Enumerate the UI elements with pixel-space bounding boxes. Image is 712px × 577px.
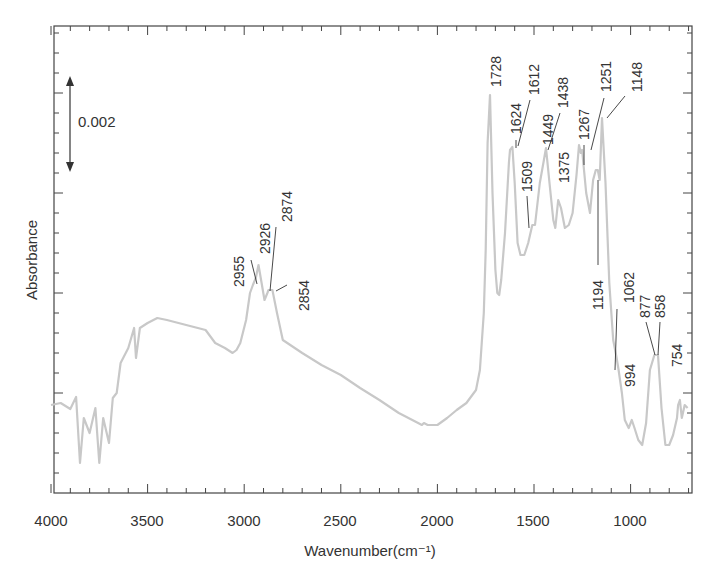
x-tick-4000: 4000 bbox=[34, 512, 67, 529]
x-tick-3500: 3500 bbox=[130, 512, 163, 529]
y-axis-title: Absorbance bbox=[23, 220, 40, 300]
scale-bar: 0.002 bbox=[66, 76, 116, 172]
peak-label-1251: 1251 bbox=[598, 61, 614, 92]
peak-label-1449: 1449 bbox=[540, 114, 556, 145]
peak-label-754: 754 bbox=[669, 343, 685, 367]
x-tick-2000: 2000 bbox=[420, 512, 453, 529]
peak-label-858: 858 bbox=[652, 294, 668, 318]
peak-label-1509: 1509 bbox=[519, 161, 535, 192]
peak-label-1438: 1438 bbox=[555, 77, 571, 108]
arrow-up-icon bbox=[66, 76, 74, 86]
peak-label-1267: 1267 bbox=[576, 109, 592, 140]
peak-label-877: 877 bbox=[637, 294, 653, 318]
scale-bar-label: 0.002 bbox=[78, 113, 116, 130]
peak-label-1375: 1375 bbox=[556, 152, 572, 183]
spectrum-trace bbox=[51, 95, 688, 463]
peak-label-1624: 1624 bbox=[508, 103, 524, 134]
peak-label-1728: 1728 bbox=[488, 56, 504, 87]
peak-label-2854: 2854 bbox=[296, 280, 312, 311]
peak-label-994: 994 bbox=[622, 363, 638, 387]
x-axis-title: Wavenumber(cm⁻¹) bbox=[304, 542, 436, 559]
peak-label-1148: 1148 bbox=[629, 62, 645, 92]
x-tick-1000: 1000 bbox=[613, 512, 646, 529]
y-axis-ticks bbox=[54, 33, 692, 473]
peak-label-1612: 1612 bbox=[526, 64, 542, 95]
x-axis-ticks bbox=[51, 26, 689, 493]
x-tick-2500: 2500 bbox=[323, 512, 356, 529]
peak-leader-lines bbox=[251, 96, 660, 370]
x-tick-3000: 3000 bbox=[227, 512, 260, 529]
peak-label-2874: 2874 bbox=[279, 191, 295, 222]
ir-spectrum-chart: 0.002 4000 3500 3000 2500 2000 1500 1000… bbox=[0, 0, 712, 577]
peak-label-2926: 2926 bbox=[257, 223, 273, 254]
plot-frame bbox=[54, 26, 692, 493]
arrow-down-icon bbox=[66, 162, 74, 172]
x-tick-labels: 4000 3500 3000 2500 2000 1500 1000 bbox=[34, 512, 646, 529]
peak-label-2955: 2955 bbox=[231, 256, 247, 287]
x-tick-1500: 1500 bbox=[516, 512, 549, 529]
peak-label-1194: 1194 bbox=[590, 280, 606, 310]
peak-label-1062: 1062 bbox=[621, 272, 637, 303]
